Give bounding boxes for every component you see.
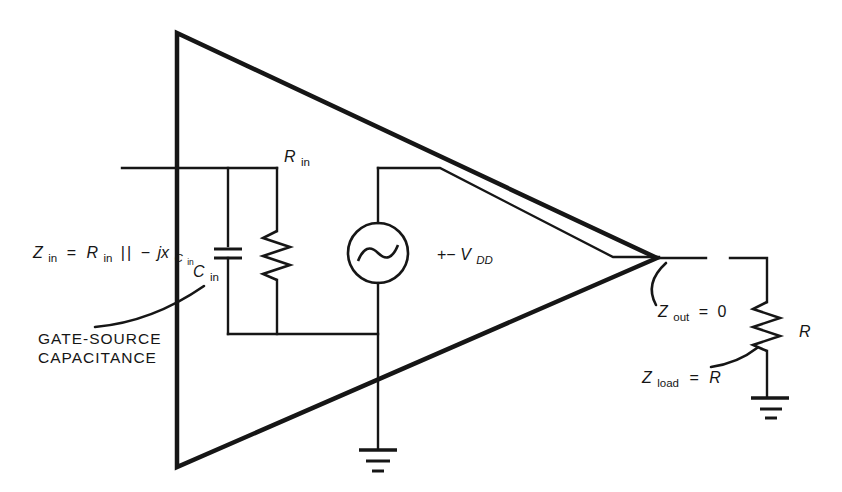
load-resistor-zigzag — [753, 302, 780, 351]
amplifier-triangle — [177, 33, 657, 467]
minus-sign: − — [141, 244, 150, 261]
c-sub: in — [210, 271, 219, 283]
input-resistor — [263, 168, 290, 334]
z-sub: out — [673, 311, 690, 323]
z-var: Z — [641, 369, 653, 386]
z-in-formula: Z in = R in || − jx C in — [32, 244, 194, 267]
r-sub: in — [103, 252, 112, 264]
v-var: V — [460, 246, 472, 263]
output-wire-load-side — [730, 258, 767, 302]
equals-sign: = — [689, 369, 698, 386]
parallel-sign: || — [121, 244, 133, 261]
z-load-value: R — [709, 369, 721, 386]
r-var: R — [284, 148, 296, 165]
z-sub: in — [48, 252, 57, 264]
vdd-label: +− V DD — [437, 246, 493, 266]
r-in-label: R in — [284, 148, 310, 168]
circuit-figure: Z in = R in || − jx C in C in R in +− V … — [0, 0, 842, 492]
z-var: Z — [657, 303, 669, 320]
r-var: R — [86, 244, 98, 261]
ground-symbol-right — [751, 398, 789, 418]
z-load-pointer-arc — [711, 348, 757, 367]
ac-source — [348, 168, 408, 449]
load-r-label: R — [799, 323, 811, 340]
c-in-label: C in — [193, 263, 219, 283]
internal-output-lead — [378, 168, 659, 257]
gate-source-pointer-arc — [95, 286, 204, 327]
resistor-zigzag — [263, 231, 290, 280]
amplifier-impedance-schematic: Z in = R in || − jx C in C in R in +− V … — [0, 0, 842, 492]
ground-symbol-left — [359, 450, 397, 471]
gate-source-caption-line2: CAPACITANCE — [38, 349, 157, 366]
equals-sign: = — [699, 303, 708, 320]
z-load-label: Z load = R — [641, 369, 721, 390]
z-out-pointer-arc — [652, 263, 666, 305]
sine-wave-icon — [358, 245, 398, 261]
input-capacitor — [214, 168, 242, 334]
equals-sign: = — [67, 244, 76, 261]
r-sub: in — [301, 156, 310, 168]
jx-sub: C — [174, 252, 183, 264]
gate-source-caption-line1: GATE-SOURCE — [38, 330, 162, 347]
v-sub: DD — [476, 254, 493, 266]
z-var: Z — [32, 244, 44, 261]
jx-var: jx — [155, 244, 170, 261]
z-out-value: 0 — [717, 303, 726, 320]
z-out-label: Z out = 0 — [657, 303, 726, 324]
plus-minus-sign: +− — [437, 246, 456, 263]
z-sub: load — [657, 377, 679, 389]
c-var: C — [193, 263, 205, 280]
r-var: R — [799, 323, 811, 340]
